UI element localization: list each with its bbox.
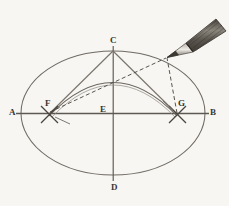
figure-canvas xyxy=(0,0,229,206)
pencil-icon xyxy=(167,19,226,58)
label-point-e: E xyxy=(100,105,106,114)
ellipse-construction-figure: A B C D E F G xyxy=(0,0,229,206)
pencil-shaft xyxy=(186,19,226,52)
focus-cross-mark-f xyxy=(41,106,70,124)
label-point-b: B xyxy=(210,108,216,117)
label-point-d: D xyxy=(111,183,118,192)
label-point-c: C xyxy=(110,36,117,45)
string-line-g-to-pencil-dashed xyxy=(167,58,177,113)
label-point-g: G xyxy=(178,99,185,108)
label-point-a: A xyxy=(9,108,16,117)
label-point-f: F xyxy=(45,99,51,108)
